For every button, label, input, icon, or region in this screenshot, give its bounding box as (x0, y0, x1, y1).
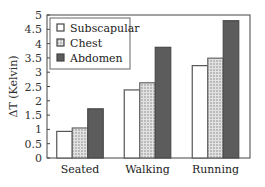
y-axis-title: ΔT (Kelvin) (7, 55, 20, 117)
legend-swatch-abdomen (57, 54, 64, 61)
x-axis-categories: SeatedWalkingRunning (61, 163, 239, 176)
bar-subscapular-walking (124, 90, 140, 158)
y-tick-label: 3 (35, 66, 42, 79)
bar-chart: ΔT (Kelvin) 00.511.522.533.544.55 Seated… (0, 0, 265, 187)
y-tick-label: 2.5 (25, 81, 43, 94)
legend-swatch-subscapular (57, 24, 64, 31)
x-category-label: Seated (61, 163, 100, 176)
legend-label-chest: Chest (70, 37, 103, 50)
bar-abdomen-walking (155, 47, 171, 158)
x-category-label: Walking (125, 163, 170, 176)
y-tick-label: 1 (35, 123, 42, 136)
bar-chest-running (208, 58, 224, 158)
bar-abdomen-running (223, 21, 239, 158)
y-tick-label: 1.5 (25, 109, 43, 122)
bar-subscapular-seated (57, 131, 73, 158)
y-tick-label: 0.5 (25, 138, 43, 151)
y-tick-label: 4.5 (25, 23, 43, 36)
y-tick-label: 0 (35, 152, 42, 165)
bar-abdomen-seated (88, 109, 104, 158)
bar-subscapular-running (192, 66, 208, 158)
y-tick-label: 3.5 (25, 52, 43, 65)
bar-chest-walking (140, 83, 156, 158)
bar-chest-seated (72, 128, 88, 158)
y-tick-label: 2 (35, 95, 42, 108)
y-tick-label: 4 (35, 38, 42, 51)
legend-label-subscapular: Subscapular (70, 22, 140, 35)
legend: SubscapularChestAbdomen (50, 18, 140, 69)
legend-label-abdomen: Abdomen (69, 52, 123, 65)
y-axis-label: ΔT (Kelvin) (7, 55, 20, 117)
legend-swatch-chest (57, 39, 64, 46)
y-tick-label: 5 (35, 9, 42, 22)
x-category-label: Running (192, 163, 239, 176)
y-axis-ticks: 00.511.522.533.544.55 (25, 9, 51, 165)
